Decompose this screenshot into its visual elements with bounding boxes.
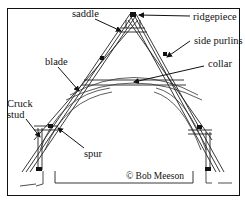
right-purlin: [163, 52, 167, 56]
left-stud-block: [36, 167, 42, 171]
arch-braces: [40, 78, 206, 151]
left-purlin: [100, 56, 104, 60]
cruck-studs: [38, 128, 210, 170]
left-blade: [22, 14, 138, 172]
label-ridgepiece: ridgepiece: [193, 11, 237, 22]
right-wallplate: [197, 125, 202, 129]
copyright-notice: © Bob Meeson: [126, 171, 184, 182]
label-blade: blade: [45, 56, 68, 67]
label-cruck: Cruck: [7, 98, 33, 109]
label-spur: spur: [84, 148, 102, 159]
label-stud: stud: [7, 109, 25, 120]
right-stud-block: [205, 167, 211, 171]
label-saddle: saddle: [72, 8, 99, 19]
cruck-truss-drawing: [0, 0, 245, 200]
label-side-purlins: side purlins: [194, 35, 243, 46]
label-collar: collar: [208, 58, 232, 69]
label-arrows: [26, 15, 204, 148]
ridgepiece-block: [130, 12, 136, 17]
